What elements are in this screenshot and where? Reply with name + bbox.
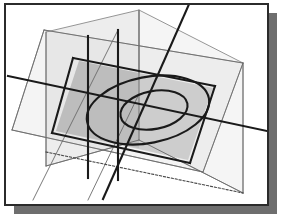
planes-diagram-svg [0,0,287,222]
figure-container [0,0,287,222]
